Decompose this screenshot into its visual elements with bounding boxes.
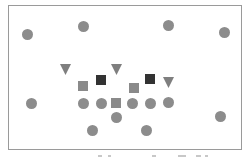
- triangle-down-marker: [60, 64, 71, 75]
- circle-marker: [141, 125, 152, 136]
- caption-glyph-fragment: [196, 155, 201, 157]
- circle-marker: [96, 98, 107, 109]
- caption-glyph-fragment: [98, 155, 102, 157]
- triangle-down-marker: [163, 77, 174, 88]
- triangle-down-marker: [111, 64, 122, 75]
- caption-glyph-fragment: [152, 155, 156, 157]
- gray-square-marker: [111, 98, 121, 108]
- circle-marker: [26, 98, 37, 109]
- caption-glyph-fragment: [178, 155, 186, 157]
- circle-marker: [163, 20, 174, 31]
- dark-square-marker: [145, 74, 155, 84]
- caption-glyph-fragment: [205, 155, 208, 157]
- caption-glyph-fragment: [108, 155, 111, 157]
- diagram-frame: [8, 5, 242, 150]
- circle-marker: [111, 112, 122, 123]
- circle-marker: [145, 98, 156, 109]
- gray-square-marker: [129, 83, 139, 93]
- circle-marker: [127, 98, 138, 109]
- circle-marker: [78, 98, 89, 109]
- dark-square-marker: [96, 75, 106, 85]
- circle-marker: [219, 27, 230, 38]
- circle-marker: [87, 125, 98, 136]
- circle-marker: [163, 97, 174, 108]
- circle-marker: [22, 29, 33, 40]
- circle-marker: [215, 111, 226, 122]
- gray-square-marker: [78, 81, 88, 91]
- circle-marker: [78, 21, 89, 32]
